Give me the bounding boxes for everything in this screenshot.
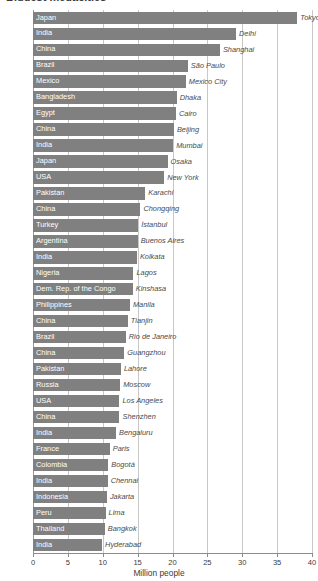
bar-row[interactable]: Turkeyİstanbul (33, 218, 312, 234)
country-label: China (36, 412, 55, 422)
country-label: China (36, 316, 55, 326)
chart-title: Biggest megacities (6, 0, 106, 1)
bar-row[interactable]: IndonesiaJakarta (33, 489, 312, 505)
city-label: Buenos Aires (141, 236, 185, 246)
country-label: Peru (36, 508, 52, 518)
x-tick-label: 20 (168, 558, 176, 567)
x-tick-label: 15 (133, 558, 141, 567)
bar-row[interactable]: PakistanLahore (33, 361, 312, 377)
country-label: China (36, 124, 55, 134)
city-label: Mexico City (189, 77, 227, 87)
chart-page: Biggest megacities JapanTokyoIndiaDelhiC… (0, 0, 318, 581)
bar-row[interactable]: ChinaShanghai (33, 42, 312, 58)
country-label: China (36, 348, 55, 358)
city-label: Moscow (123, 380, 150, 390)
country-label: India (36, 28, 52, 38)
country-label: Philippines (36, 300, 72, 310)
bar-row[interactable]: PakistanKarachi (33, 186, 312, 202)
city-label: Shanghai (223, 45, 254, 55)
bar[interactable] (33, 139, 173, 151)
city-label: Jakarta (110, 492, 134, 502)
city-label: Lagos (136, 268, 156, 278)
city-label: Delhi (239, 29, 256, 39)
bar-row[interactable]: FranceParis (33, 441, 312, 457)
bar[interactable] (33, 60, 188, 72)
city-label: New York (167, 173, 199, 183)
x-tick-label: 5 (66, 558, 70, 567)
country-label: Brazil (36, 332, 54, 342)
bar-row[interactable]: PhilippinesManila (33, 297, 312, 313)
country-label: China (36, 44, 55, 54)
country-label: India (36, 540, 52, 550)
x-tick (138, 553, 139, 557)
city-label: Bengaluru (119, 428, 153, 438)
bar-row[interactable]: IndiaChennai (33, 473, 312, 489)
city-label: Guangzhou (127, 348, 165, 358)
city-label: Bangkok (108, 524, 137, 534)
x-tick (68, 553, 69, 557)
x-axis-title: Million people (0, 568, 318, 578)
bar-row[interactable]: BrazilSão Paulo (33, 58, 312, 74)
x-tick (173, 553, 174, 557)
bar-row[interactable]: MexicoMexico City (33, 74, 312, 90)
city-label: Beijing (177, 125, 199, 135)
bar-row[interactable]: IndiaMumbai (33, 138, 312, 154)
city-label: Chennai (111, 476, 139, 486)
city-label: Lima (109, 508, 125, 518)
bar-row[interactable]: JapanTokyo (33, 10, 312, 26)
bar-row[interactable]: PeruLima (33, 505, 312, 521)
bar-rows: JapanTokyoIndiaDelhiChinaShanghaiBrazilS… (33, 10, 312, 553)
bar-row[interactable]: BangladeshDhaka (33, 90, 312, 106)
bar-row[interactable]: USALos Angeles (33, 393, 312, 409)
city-label: Los Angeles (122, 396, 162, 406)
bar-row[interactable]: BrazilRio de Janeiro (33, 329, 312, 345)
country-label: Argentina (36, 236, 68, 246)
bar-row[interactable]: ArgentinaBuenos Aires (33, 234, 312, 250)
bar-row[interactable]: IndiaKolkata (33, 250, 312, 266)
bar-row[interactable]: ChinaChongqing (33, 202, 312, 218)
country-label: India (36, 476, 52, 486)
bar[interactable] (33, 28, 236, 40)
bar-row[interactable]: IndiaHyderabad (33, 537, 312, 553)
bar[interactable] (33, 171, 164, 183)
gridline-40 (312, 10, 313, 553)
bar-row[interactable]: ChinaTianjin (33, 313, 312, 329)
country-label: Russia (36, 380, 59, 390)
bar-row[interactable]: USANew York (33, 170, 312, 186)
bar-row[interactable]: RussiaMoscow (33, 377, 312, 393)
x-tick (242, 553, 243, 557)
city-label: Bogotá (111, 460, 134, 470)
x-tick-label: 30 (238, 558, 246, 567)
country-label: India (36, 252, 52, 262)
bar-row[interactable]: IndiaBengaluru (33, 425, 312, 441)
bar[interactable] (33, 44, 220, 56)
x-tick (103, 553, 104, 557)
x-tick-label: 25 (203, 558, 211, 567)
country-label: Nigeria (36, 268, 59, 278)
bar-row[interactable]: ChinaGuangzhou (33, 345, 312, 361)
bar-row[interactable]: ChinaBeijing (33, 122, 312, 138)
city-label: Tokyo (300, 13, 318, 23)
bar-row[interactable]: ChinaShenzhen (33, 409, 312, 425)
country-label: India (36, 140, 52, 150)
country-label: China (36, 204, 55, 214)
bar-row[interactable]: IndiaDelhi (33, 26, 312, 42)
country-label: India (36, 428, 52, 438)
bar-row[interactable]: EgyptCairo (33, 106, 312, 122)
country-label: USA (36, 396, 51, 406)
x-tick (33, 553, 34, 557)
bar-row[interactable]: Dem. Rep. of the CongoKinshasa (33, 282, 312, 298)
city-label: Rio de Janeiro (129, 332, 177, 342)
bar-row[interactable]: NigeriaLagos (33, 266, 312, 282)
bar-row[interactable]: ThailandBangkok (33, 521, 312, 537)
bar[interactable] (33, 12, 297, 24)
city-label: Paris (113, 444, 130, 454)
city-label: Kolkata (140, 252, 165, 262)
x-tick-label: 40 (308, 558, 316, 567)
city-label: Kinshasa (136, 284, 166, 294)
x-tick (207, 553, 208, 557)
bar-row[interactable]: JapanOsaka (33, 154, 312, 170)
country-label: Japan (36, 156, 56, 166)
country-label: Indonesia (36, 492, 68, 502)
bar-row[interactable]: ColombiaBogotá (33, 457, 312, 473)
